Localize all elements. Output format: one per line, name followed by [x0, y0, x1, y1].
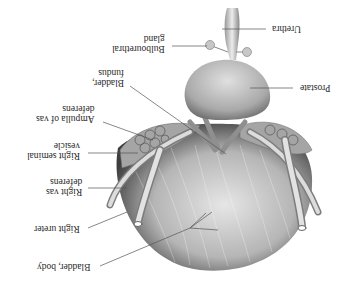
label-right-vas-deferens-line2: deferens [46, 177, 82, 187]
label-right-seminal-vesicle-line2: vesicle [27, 141, 80, 151]
label-ampulla-vas-deferens: Ampulla of vas deferens [36, 104, 95, 124]
label-bladder-body: Bladder, body [37, 262, 90, 272]
label-bulbourethral-gland: Bulbourethral gland [112, 34, 165, 54]
label-urethra-line1: Urethra [272, 24, 301, 34]
label-right-ureter-line1: Right ureter [34, 224, 80, 234]
anatomy-diagram: Urethra Bulbourethral gland Prostate Bla… [0, 0, 364, 296]
label-right-vas-deferens-line1: Right vas [46, 187, 82, 197]
label-right-ureter: Right ureter [34, 224, 80, 234]
label-bladder-body-line1: Bladder, body [37, 262, 90, 272]
prostate-shape [185, 60, 271, 120]
label-right-seminal-vesicle-line1: Right seminal [27, 151, 80, 161]
label-ampulla-vas-deferens-line2: deferens [36, 104, 95, 114]
label-bladder-fundus-line1: Bladder, [92, 78, 124, 88]
label-bulbourethral-gland-line2: gland [112, 34, 165, 44]
label-bladder-fundus: Bladder, fundus [92, 68, 124, 88]
label-prostate-line1: Prostate [300, 83, 331, 93]
label-bulbourethral-gland-line1: Bulbourethral [112, 44, 165, 54]
label-bladder-fundus-line2: fundus [92, 68, 124, 78]
label-urethra: Urethra [272, 24, 301, 34]
label-right-vas-deferens: Right vas deferens [46, 177, 82, 197]
label-prostate: Prostate [300, 83, 331, 93]
label-right-seminal-vesicle: Right seminal vesicle [27, 141, 80, 161]
label-ampulla-vas-deferens-line1: Ampulla of vas [36, 114, 95, 124]
